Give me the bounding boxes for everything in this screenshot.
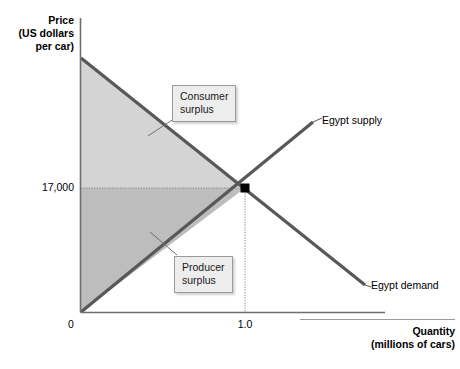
figure-supply-demand-surplus: Price (US dollars per car) Quantity (mil…: [0, 0, 460, 369]
y-axis-tick-label-17000: 17,000: [22, 181, 74, 193]
equilibrium-point-marker: [241, 184, 250, 193]
supply-curve-label: Egypt supply: [322, 114, 382, 126]
y-axis-title: Price (US dollars per car): [4, 14, 74, 53]
x-axis-title: Quantity (millions of cars): [300, 325, 455, 351]
demand-curve-label: Egypt demand: [371, 279, 439, 291]
x-axis-tick-label-one: 1.0: [227, 318, 263, 330]
x-axis-tick-label-origin: 0: [64, 318, 78, 330]
producer-surplus-callout: Producer surplus: [174, 256, 233, 293]
supply-label-leader-line: [313, 118, 322, 122]
consumer-surplus-callout: Consumer surplus: [172, 85, 236, 122]
